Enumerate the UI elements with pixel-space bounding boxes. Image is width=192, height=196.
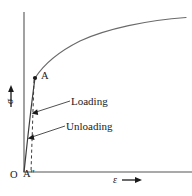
point-a-marker bbox=[33, 76, 37, 80]
epsilon-axis-arrow-icon bbox=[122, 177, 142, 183]
unloading-leader-line bbox=[28, 126, 65, 140]
plastic-strain-curve bbox=[35, 18, 186, 79]
unloading-label: Unloading bbox=[66, 121, 112, 132]
origin-label: O bbox=[10, 170, 18, 181]
point-a-label: A bbox=[41, 71, 49, 82]
a-double-prime-label: A″ bbox=[23, 169, 35, 180]
loading-leader-line bbox=[32, 101, 70, 115]
stress-strain-figure: A Loading Unloading O A″ σ ε bbox=[0, 0, 192, 196]
epsilon-axis-label: ε bbox=[113, 175, 117, 185]
sigma-axis-label: σ bbox=[5, 99, 15, 104]
loading-label: Loading bbox=[71, 96, 108, 107]
